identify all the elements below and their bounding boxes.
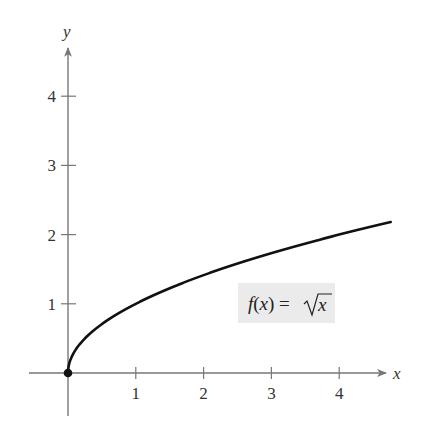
y-tick-label: 4 (48, 87, 57, 106)
sqrt-curve (68, 222, 391, 373)
svg-text:x: x (317, 294, 327, 315)
svg-text:f(x) =: f(x) = (248, 293, 290, 315)
x-tick-label: 1 (132, 384, 141, 403)
origin-point (64, 369, 73, 378)
sqrt-function-graph: x y 1234 1234 f(x) = x (0, 0, 426, 433)
y-ticks: 1234 (48, 87, 77, 314)
x-axis-label: x (392, 364, 401, 383)
y-axis-label: y (61, 22, 71, 41)
y-tick-label: 3 (48, 156, 57, 175)
x-tick-label: 2 (199, 384, 208, 403)
y-tick-label: 1 (48, 295, 57, 314)
y-tick-label: 2 (48, 226, 57, 245)
x-tick-label: 3 (267, 384, 276, 403)
function-label: f(x) = x (238, 283, 335, 323)
x-tick-label: 4 (335, 384, 344, 403)
